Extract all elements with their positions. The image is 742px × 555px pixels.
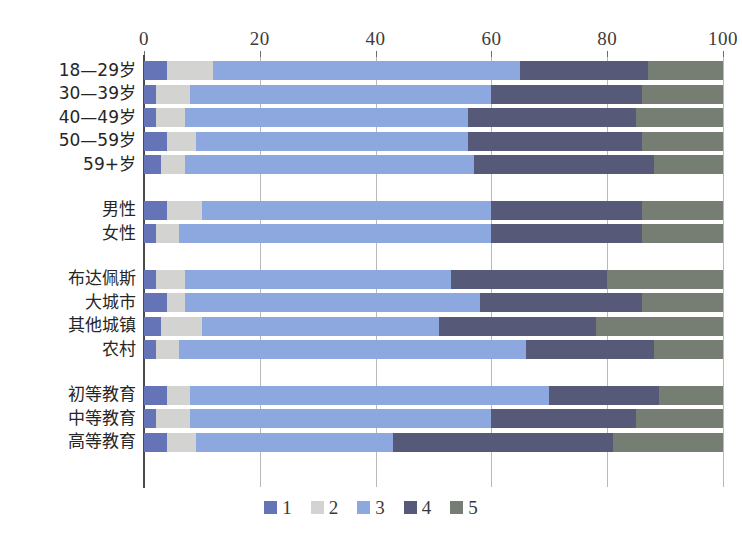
- bar-row[interactable]: [144, 132, 723, 151]
- bar-segment-series-3[interactable]: [213, 61, 520, 80]
- plot-area: [144, 57, 723, 487]
- bar-row[interactable]: [144, 224, 723, 243]
- bar-segment-series-4[interactable]: [480, 293, 642, 312]
- bar-segment-series-4[interactable]: [520, 61, 647, 80]
- bar-segment-series-4[interactable]: [468, 132, 642, 151]
- bar-segment-series-4[interactable]: [491, 409, 636, 428]
- bar-segment-series-2[interactable]: [161, 317, 202, 336]
- bar-segment-series-1[interactable]: [144, 340, 156, 359]
- bar-segment-series-1[interactable]: [144, 386, 167, 405]
- bar-segment-series-3[interactable]: [196, 433, 393, 452]
- bar-segment-series-5[interactable]: [642, 132, 723, 151]
- bar-segment-series-3[interactable]: [190, 409, 491, 428]
- bar-row[interactable]: [144, 433, 723, 452]
- bar-segment-series-2[interactable]: [156, 340, 179, 359]
- bar-segment-series-1[interactable]: [144, 61, 167, 80]
- category-label: 中等教育: [0, 410, 136, 427]
- bar-row[interactable]: [144, 340, 723, 359]
- bar-segment-series-1[interactable]: [144, 409, 156, 428]
- bar-segment-series-4[interactable]: [491, 85, 642, 104]
- bar-segment-series-4[interactable]: [491, 224, 642, 243]
- category-label: 30—39岁: [0, 85, 136, 102]
- bar-segment-series-3[interactable]: [185, 108, 469, 127]
- bar-segment-series-4[interactable]: [491, 201, 642, 220]
- bar-segment-series-5[interactable]: [613, 433, 723, 452]
- bar-segment-series-1[interactable]: [144, 108, 156, 127]
- bar-segment-series-5[interactable]: [642, 201, 723, 220]
- bar-segment-series-2[interactable]: [167, 201, 202, 220]
- bar-segment-series-3[interactable]: [202, 201, 492, 220]
- bar-row[interactable]: [144, 155, 723, 174]
- legend-item[interactable]: 4: [404, 498, 432, 517]
- bar-segment-series-4[interactable]: [549, 386, 659, 405]
- bar-segment-series-1[interactable]: [144, 293, 167, 312]
- bar-segment-series-3[interactable]: [185, 293, 480, 312]
- bar-segment-series-3[interactable]: [185, 270, 451, 289]
- bar-segment-series-2[interactable]: [167, 132, 196, 151]
- bar-segment-series-2[interactable]: [156, 85, 191, 104]
- bar-row[interactable]: [144, 108, 723, 127]
- bar-row[interactable]: [144, 409, 723, 428]
- bar-segment-series-5[interactable]: [642, 224, 723, 243]
- bar-segment-series-1[interactable]: [144, 317, 161, 336]
- bar-row[interactable]: [144, 270, 723, 289]
- bar-row[interactable]: [144, 317, 723, 336]
- bar-segment-series-5[interactable]: [654, 340, 723, 359]
- bar-segment-series-4[interactable]: [526, 340, 653, 359]
- bar-segment-series-5[interactable]: [654, 155, 723, 174]
- bar-segment-series-1[interactable]: [144, 270, 156, 289]
- bar-segment-series-2[interactable]: [156, 108, 185, 127]
- bar-segment-series-2[interactable]: [156, 270, 185, 289]
- legend-swatch-icon: [404, 501, 417, 514]
- bar-segment-series-5[interactable]: [648, 61, 723, 80]
- bar-segment-series-5[interactable]: [636, 409, 723, 428]
- category-label: 布达佩斯: [0, 270, 136, 287]
- bar-segment-series-2[interactable]: [156, 409, 191, 428]
- bar-row[interactable]: [144, 386, 723, 405]
- bar-segment-series-4[interactable]: [474, 155, 653, 174]
- bar-segment-series-4[interactable]: [439, 317, 595, 336]
- bar-segment-series-3[interactable]: [185, 155, 475, 174]
- bar-segment-series-4[interactable]: [451, 270, 607, 289]
- bar-segment-series-5[interactable]: [642, 293, 723, 312]
- bar-segment-series-3[interactable]: [179, 340, 526, 359]
- legend-item[interactable]: 3: [357, 498, 385, 517]
- bar-segment-series-4[interactable]: [393, 433, 613, 452]
- bar-segment-series-2[interactable]: [167, 433, 196, 452]
- bar-segment-series-3[interactable]: [190, 85, 491, 104]
- bar-segment-series-5[interactable]: [659, 386, 723, 405]
- x-axis-tick-label: 0: [139, 28, 149, 50]
- legend-item[interactable]: 5: [450, 498, 478, 517]
- bar-segment-series-2[interactable]: [156, 224, 179, 243]
- bar-segment-series-5[interactable]: [596, 317, 723, 336]
- x-axis-tick-labels: 020406080100: [144, 28, 723, 50]
- bar-segment-series-2[interactable]: [167, 386, 190, 405]
- bar-segment-series-3[interactable]: [190, 386, 549, 405]
- bar-segment-series-5[interactable]: [607, 270, 723, 289]
- bar-segment-series-1[interactable]: [144, 155, 161, 174]
- bar-segment-series-1[interactable]: [144, 224, 156, 243]
- bar-segment-series-1[interactable]: [144, 85, 156, 104]
- x-axis-tick-label: 80: [597, 28, 617, 50]
- bar-segment-series-1[interactable]: [144, 132, 167, 151]
- bar-segment-series-4[interactable]: [468, 108, 636, 127]
- bar-segment-series-5[interactable]: [642, 85, 723, 104]
- bar-segment-series-3[interactable]: [196, 132, 468, 151]
- bar-row[interactable]: [144, 201, 723, 220]
- bar-segment-series-5[interactable]: [636, 108, 723, 127]
- bar-row[interactable]: [144, 61, 723, 80]
- bar-row[interactable]: [144, 293, 723, 312]
- bar-segment-series-2[interactable]: [167, 61, 213, 80]
- bar-segment-series-2[interactable]: [167, 293, 184, 312]
- bar-segment-series-3[interactable]: [202, 317, 439, 336]
- legend-label: 3: [375, 498, 385, 517]
- bar-segment-series-3[interactable]: [179, 224, 492, 243]
- legend-item[interactable]: 1: [264, 498, 292, 517]
- bar-rows: [144, 57, 723, 487]
- legend-item[interactable]: 2: [311, 498, 339, 517]
- bar-segment-series-1[interactable]: [144, 433, 167, 452]
- category-label: 40—49岁: [0, 109, 136, 126]
- bar-segment-series-2[interactable]: [161, 155, 184, 174]
- bar-segment-series-1[interactable]: [144, 201, 167, 220]
- bar-row[interactable]: [144, 85, 723, 104]
